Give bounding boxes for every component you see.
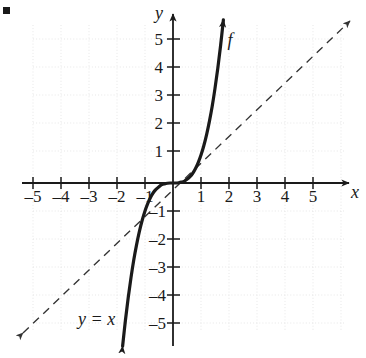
y-tick-label: 2 xyxy=(155,114,164,133)
x-tick-label: –4 xyxy=(52,187,71,206)
y-tick-label: –3 xyxy=(148,258,166,277)
cartesian-plot: –5 –4 –3 –2 –1 1 2 3 4 5 5 4 3 2 1 –1 –2… xyxy=(0,0,366,358)
y-tick-label: –5 xyxy=(148,314,166,333)
y-tick-label: –2 xyxy=(148,230,166,249)
graph-figure: –5 –4 –3 –2 –1 1 2 3 4 5 5 4 3 2 1 –1 –2… xyxy=(0,0,366,358)
identity-line-y-equals-x xyxy=(23,21,350,333)
y-tick-label: 3 xyxy=(155,86,164,105)
x-tick-label: –2 xyxy=(108,187,126,206)
x-tick-label: –3 xyxy=(80,187,98,206)
x-tick-labels: –5 –4 –3 –2 –1 1 2 3 4 5 xyxy=(24,187,318,206)
x-tick-label: 2 xyxy=(225,187,234,206)
x-axis-label: x xyxy=(350,182,359,202)
corner-bullet-marker xyxy=(3,7,10,14)
x-tick-label: –5 xyxy=(24,187,42,206)
x-tick-label: 4 xyxy=(281,187,290,206)
function-label-f: f xyxy=(227,30,235,50)
y-tick-label: 1 xyxy=(155,142,164,161)
x-tick-label: 5 xyxy=(309,187,318,206)
x-tick-label: 3 xyxy=(253,187,262,206)
y-tick-label: 5 xyxy=(155,30,164,49)
y-tick-labels-positive: 5 4 3 2 1 xyxy=(155,30,164,161)
y-tick-label: –1 xyxy=(148,202,166,221)
y-tick-label: 4 xyxy=(155,58,164,77)
y-tick-label: –4 xyxy=(148,286,167,305)
y-axis-label: y xyxy=(153,3,163,23)
y-tick-labels-negative: –1 –2 –3 –4 –5 xyxy=(148,202,167,333)
x-tick-label: 1 xyxy=(197,187,206,206)
identity-line-label: y = x xyxy=(76,309,115,329)
